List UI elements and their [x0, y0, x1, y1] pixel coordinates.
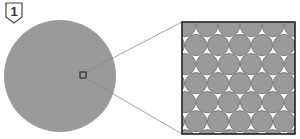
packed-fiber-circle [295, 72, 300, 93]
packing-diagram [0, 0, 300, 139]
packed-fiber-circle [251, 0, 272, 18]
packed-fiber-circle [185, 111, 206, 132]
packed-fiber-circle [273, 111, 294, 132]
packed-fiber-circle [207, 0, 228, 18]
packed-fiber-circle [251, 111, 272, 132]
packed-fiber-circle [218, 53, 239, 74]
packed-fiber-circle [218, 92, 239, 113]
packed-fiber-circle [152, 130, 173, 139]
packed-fiber-circle [196, 53, 217, 74]
packed-fiber-circle [229, 72, 250, 93]
main-cross-section-circle [4, 20, 116, 132]
packed-fiber-circle [152, 92, 173, 113]
packed-fiber-circle [185, 72, 206, 93]
packed-fiber-circle [207, 111, 228, 132]
packed-fiber-circle [152, 53, 173, 74]
packed-fiber-circle [174, 15, 195, 36]
packed-fiber-circle [218, 15, 239, 36]
packed-fiber-circle [174, 53, 195, 74]
hexagonal-packing-detail [152, 0, 300, 139]
packed-fiber-circle [207, 34, 228, 55]
packed-fiber-circle [262, 53, 283, 74]
packed-fiber-circle [229, 34, 250, 55]
packed-fiber-circle [251, 72, 272, 93]
packed-fiber-circle [273, 0, 294, 18]
packed-fiber-circle [273, 34, 294, 55]
packed-fiber-circle [240, 15, 261, 36]
packed-fiber-circle [174, 92, 195, 113]
packed-fiber-circle [262, 92, 283, 113]
packed-fiber-circle [185, 0, 206, 18]
packed-fiber-circle [295, 111, 300, 132]
packed-fiber-circle [240, 53, 261, 74]
packed-fiber-circle [207, 72, 228, 93]
packed-fiber-circle [196, 92, 217, 113]
packed-fiber-circle [273, 72, 294, 93]
packed-fiber-circle [262, 15, 283, 36]
packed-fiber-circle [152, 15, 173, 36]
packed-fiber-circle [163, 0, 184, 18]
packed-fiber-circle [196, 15, 217, 36]
packed-fiber-circle [295, 0, 300, 18]
packed-fiber-circle [229, 0, 250, 18]
packed-fiber-circle [240, 92, 261, 113]
packed-fiber-circle [229, 111, 250, 132]
packed-fiber-circle [251, 34, 272, 55]
packed-fiber-circle [295, 34, 300, 55]
packed-fiber-circle [185, 34, 206, 55]
